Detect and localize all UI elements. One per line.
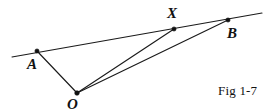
point-x-marker (172, 27, 176, 31)
segment-o-b (77, 20, 228, 93)
point-label-a: A (27, 57, 37, 72)
line-through-a-x-b (12, 13, 262, 57)
figure-caption: Fig 1-7 (218, 84, 257, 97)
point-a-marker (35, 49, 39, 53)
point-label-b: B (227, 26, 237, 41)
segment-o-x (77, 29, 174, 93)
geometry-figure: A X B O Fig 1-7 (0, 0, 279, 112)
point-o-marker (75, 91, 80, 96)
segment-o-a (37, 51, 77, 93)
point-label-x: X (167, 6, 177, 21)
point-b-marker (226, 18, 230, 22)
point-label-o: O (67, 97, 78, 112)
